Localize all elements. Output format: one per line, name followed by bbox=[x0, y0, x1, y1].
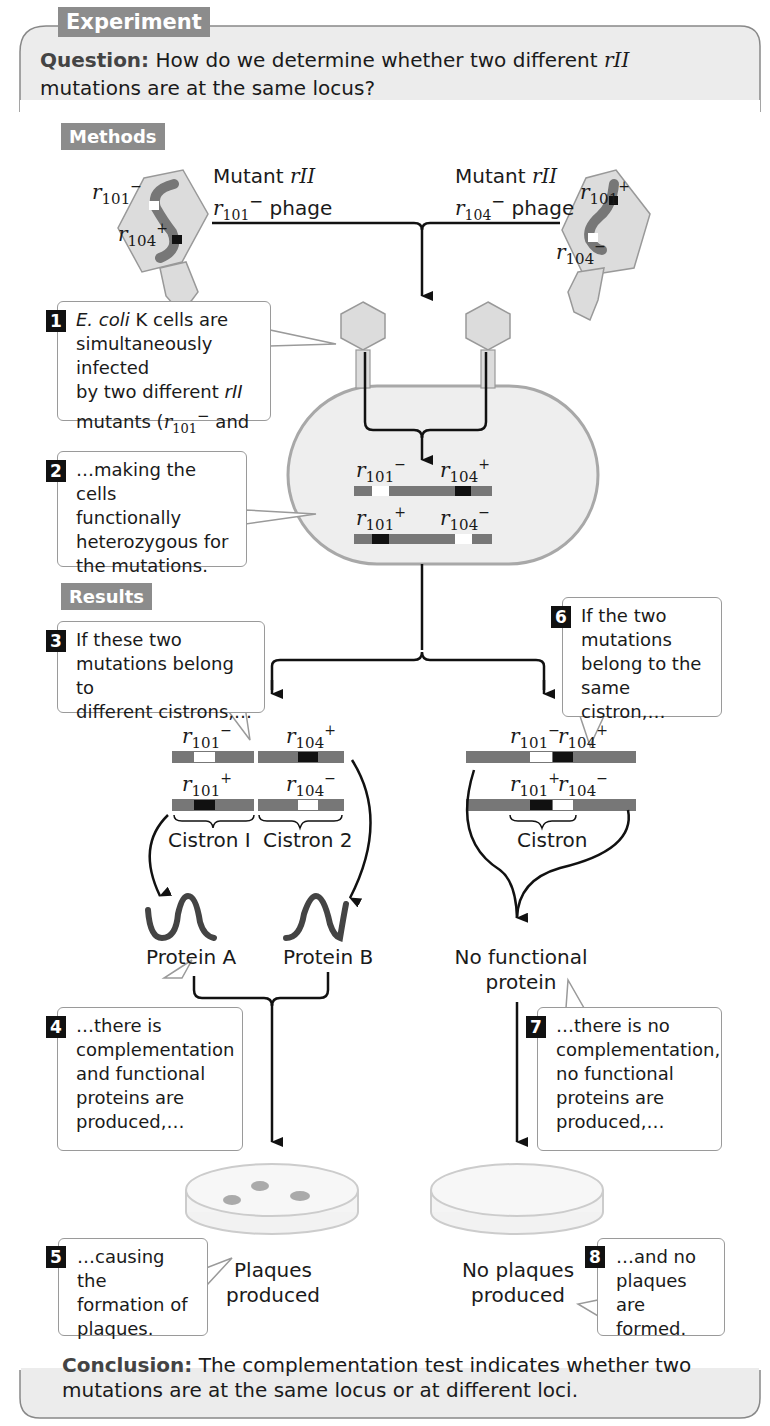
plaques-produced-label: Plaquesproduced bbox=[218, 1258, 328, 1308]
step-1-callout: E. coli K cells are simultaneously infec… bbox=[57, 301, 271, 421]
protein-b-label: Protein B bbox=[283, 945, 373, 970]
phage-left-label: Mutant rII r101− phage bbox=[213, 164, 332, 228]
allele-label: r101− bbox=[182, 722, 232, 752]
allele-label: r104− bbox=[286, 770, 336, 800]
step-2-callout: …making the cellsfunctionallyheterozygou… bbox=[57, 451, 247, 567]
no-plaques-produced-label: No plaquesproduced bbox=[458, 1258, 578, 1308]
question-text: Question: How do we determine whether tw… bbox=[40, 46, 740, 102]
no-functional-protein-label: No functionalprotein bbox=[446, 945, 596, 995]
protein-b-icon bbox=[286, 896, 346, 938]
step-6-callout: If the twomutationsbelong to thesame cis… bbox=[562, 597, 722, 717]
conclusion-label: Conclusion: bbox=[62, 1353, 192, 1377]
protein-a-label: Protein A bbox=[146, 945, 236, 970]
step-8-badge: 8 bbox=[585, 1246, 605, 1268]
step-4-callout: …there iscomplementationand functionalpr… bbox=[57, 1007, 243, 1151]
step-4-badge: 4 bbox=[46, 1016, 66, 1038]
step-8-callout: …and noplaquesare formed. bbox=[597, 1238, 725, 1336]
conclusion-text: Conclusion: The complementation test ind… bbox=[62, 1353, 742, 1403]
allele-label: r104+ bbox=[118, 220, 168, 250]
allele-label: r104− bbox=[440, 504, 490, 534]
cistron-label: Cistron bbox=[517, 828, 587, 853]
step-3-badge: 3 bbox=[46, 630, 66, 652]
step-2-badge: 2 bbox=[46, 460, 66, 482]
allele-label: r101+ bbox=[356, 504, 406, 534]
allele-label: r104+ bbox=[286, 722, 336, 752]
gene-name: rII bbox=[604, 48, 629, 72]
allele-label: r104+ bbox=[558, 722, 608, 752]
step-3-callout: If these twomutations belong todifferent… bbox=[57, 621, 265, 713]
step-5-badge: 5 bbox=[46, 1246, 66, 1268]
attached-phage-icon bbox=[341, 302, 510, 388]
methods-tag: Methods bbox=[61, 123, 165, 150]
results-tag: Results bbox=[61, 583, 152, 610]
cistron-1-label: Cistron I bbox=[168, 828, 251, 853]
step-7-badge: 7 bbox=[526, 1016, 546, 1038]
allele-label: r101+ bbox=[580, 178, 630, 208]
cistron-2-label: Cistron 2 bbox=[263, 828, 353, 853]
step-6-badge: 6 bbox=[551, 606, 571, 628]
allele-label: r101+ bbox=[182, 770, 232, 800]
allele-label: r104− bbox=[556, 238, 606, 268]
allele-label: r104+ bbox=[440, 456, 490, 486]
step-7-callout: …there is nocomplementation,no functiona… bbox=[537, 1007, 722, 1151]
phage-right-label: Mutant rII r104− phage bbox=[455, 164, 574, 228]
allele-label: r104− bbox=[558, 770, 608, 800]
allele-label: r101+ bbox=[510, 770, 560, 800]
allele-label: r101− bbox=[356, 456, 406, 486]
experiment-tag: Experiment bbox=[58, 7, 210, 37]
step-1-badge: 1 bbox=[46, 310, 66, 332]
protein-a-icon bbox=[148, 896, 214, 938]
petri-dish-plaques-icon bbox=[186, 1164, 358, 1234]
step-5-callout: …causing theformation ofplaques. bbox=[58, 1238, 208, 1336]
allele-label: r101− bbox=[510, 722, 560, 752]
question-label: Question: bbox=[40, 48, 149, 72]
petri-dish-no-plaques-icon bbox=[431, 1164, 603, 1234]
allele-label: r101− bbox=[92, 178, 142, 208]
